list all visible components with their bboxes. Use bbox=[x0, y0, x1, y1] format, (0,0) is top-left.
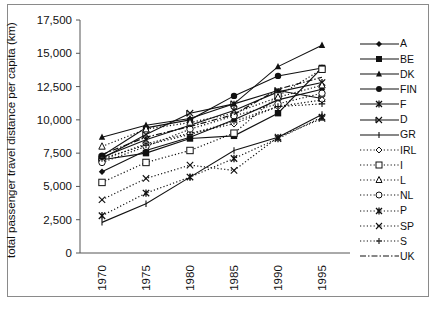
legend-item-fin: FIN bbox=[359, 82, 429, 97]
y-tick-label: 0 bbox=[66, 247, 72, 259]
legend: ABEDKFINFDGRIRLILNLPSPSUK bbox=[359, 36, 429, 264]
legend-item-nl: NL bbox=[359, 188, 429, 203]
legend-item-f: F bbox=[359, 97, 429, 112]
legend-swatch-icon bbox=[359, 220, 399, 232]
legend-label: SP bbox=[400, 221, 414, 232]
legend-swatch-icon bbox=[359, 114, 399, 126]
series-dk bbox=[99, 42, 325, 140]
legend-label: I bbox=[400, 160, 403, 171]
legend-label: S bbox=[400, 236, 407, 247]
legend-item-be: BE bbox=[359, 51, 429, 66]
series-i bbox=[99, 66, 325, 186]
series-l bbox=[99, 82, 325, 150]
legend-label: GR bbox=[400, 129, 416, 140]
legend-item-l: L bbox=[359, 173, 429, 188]
legend-item-d: D bbox=[359, 112, 429, 127]
legend-label: D bbox=[400, 114, 408, 125]
legend-item-p: P bbox=[359, 203, 429, 218]
legend-item-a: A bbox=[359, 36, 429, 51]
y-tick-label: 15,000 bbox=[37, 47, 72, 59]
legend-item-dk: DK bbox=[359, 66, 429, 81]
legend-swatch-icon bbox=[359, 38, 399, 50]
x-tick-label: 1990 bbox=[272, 265, 284, 291]
legend-swatch-icon bbox=[359, 144, 399, 156]
legend-label: NL bbox=[400, 190, 413, 201]
legend-swatch-icon bbox=[359, 250, 399, 262]
legend-label: P bbox=[400, 205, 407, 216]
legend-item-gr: GR bbox=[359, 127, 429, 142]
legend-label: L bbox=[400, 175, 406, 186]
x-tick-label: 1995 bbox=[316, 265, 328, 291]
x-tick-label: 1975 bbox=[140, 265, 152, 291]
legend-label: A bbox=[400, 38, 407, 49]
legend-item-uk: UK bbox=[359, 249, 429, 264]
legend-item-sp: SP bbox=[359, 218, 429, 233]
legend-item-s: S bbox=[359, 233, 429, 248]
y-tick-label: 5,000 bbox=[43, 180, 72, 192]
series-d bbox=[99, 87, 325, 161]
legend-swatch-icon bbox=[359, 98, 399, 110]
series-nl bbox=[99, 90, 325, 166]
legend-swatch-icon bbox=[359, 83, 399, 95]
legend-swatch-icon bbox=[359, 205, 399, 217]
series-be bbox=[99, 65, 325, 163]
y-tick-label: 2,500 bbox=[43, 214, 72, 226]
legend-label: UK bbox=[400, 251, 415, 262]
legend-swatch-icon bbox=[359, 235, 399, 247]
legend-swatch-icon bbox=[359, 129, 399, 141]
legend-swatch-icon bbox=[359, 68, 399, 80]
series-p bbox=[99, 113, 325, 219]
legend-swatch-icon bbox=[359, 53, 399, 65]
legend-swatch-icon bbox=[359, 159, 399, 171]
x-tick-label: 1980 bbox=[184, 265, 196, 291]
y-tick-label: 10,000 bbox=[37, 114, 72, 126]
x-tick-label: 1970 bbox=[96, 265, 108, 291]
series-f bbox=[99, 79, 325, 161]
y-tick-label: 7,500 bbox=[43, 147, 72, 159]
legend-label: F bbox=[400, 99, 406, 110]
y-tick-label: 17,500 bbox=[37, 14, 72, 26]
legend-swatch-icon bbox=[359, 189, 399, 201]
legend-item-i: I bbox=[359, 158, 429, 173]
x-tick-label: 1985 bbox=[228, 265, 240, 291]
series-s bbox=[99, 101, 325, 162]
y-tick-label: 12,500 bbox=[37, 81, 72, 93]
legend-label: IRL bbox=[400, 145, 416, 156]
legend-label: FIN bbox=[400, 84, 417, 95]
legend-item-irl: IRL bbox=[359, 142, 429, 157]
legend-swatch-icon bbox=[359, 174, 399, 186]
legend-label: BE bbox=[400, 54, 414, 65]
legend-label: DK bbox=[400, 69, 415, 80]
